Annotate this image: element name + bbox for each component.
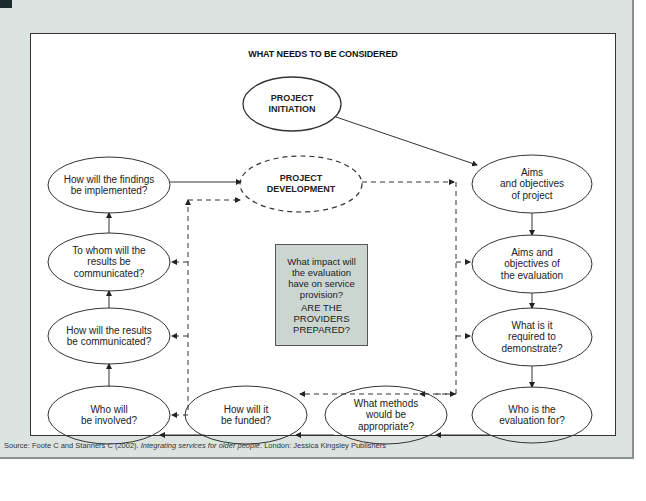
source-citation: Source: Foote C and Stanners C (2002). I… xyxy=(4,441,386,450)
node-to-whom: To whom will the results be communicated… xyxy=(48,238,170,286)
node-evaluation-for: Who is the evaluation for? xyxy=(472,395,592,435)
providers-prepared: ARE THE PROVIDERS PREPARED? xyxy=(293,302,350,335)
node-findings-implemented: How will the findings be implemented? xyxy=(48,165,170,205)
node-aims-project: Aims and objectives of project xyxy=(472,160,592,208)
source-suffix: . London: Jessica Kingsley Publishers xyxy=(260,441,386,450)
impact-question: What impact will the evaluation have on … xyxy=(287,256,356,300)
node-involved: Who will be involved? xyxy=(48,395,170,435)
node-aims-evaluation: Aims and objectives of the evaluation xyxy=(472,240,592,288)
node-required-demonstrate: What is it required to demonstrate? xyxy=(472,313,592,361)
diagram-title: WHAT NEEDS TO BE CONSIDERED xyxy=(0,49,646,59)
node-funded: How will it be funded? xyxy=(185,395,307,435)
center-impact-box: What impact will the evaluation have on … xyxy=(275,244,368,346)
node-methods: What methods would be appropriate? xyxy=(325,391,447,439)
node-project-development: PROJECT DEVELOPMENT xyxy=(240,164,362,204)
source-prefix: Source: Foote C and Stanners C (2002). xyxy=(4,441,141,450)
source-title: Integrating services for older people xyxy=(141,441,260,450)
node-results-communicated: How will the results be communicated? xyxy=(48,316,170,356)
node-project-initiation: PROJECT INITIATION xyxy=(243,84,341,124)
